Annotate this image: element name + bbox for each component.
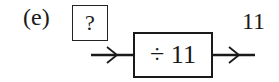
- output-value: 11: [242, 8, 265, 34]
- operation-box: ÷ 11: [133, 32, 213, 78]
- output-arrow-icon: [212, 47, 255, 63]
- input-arrow-icon: [91, 47, 134, 63]
- operation-text: ÷ 11: [150, 40, 196, 70]
